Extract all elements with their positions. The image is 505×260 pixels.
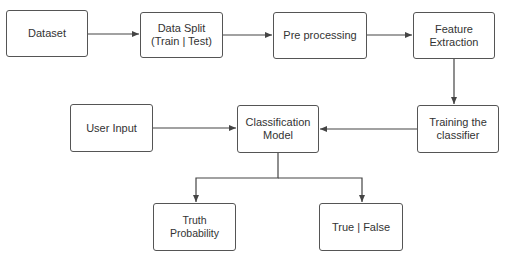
node-label: User Input (86, 122, 137, 135)
arrow-model-truefalse (278, 178, 362, 202)
node-label: True | False (332, 221, 390, 234)
node-data-split: Data Split (Train | Test) (140, 12, 223, 58)
node-label: Feature Extraction (426, 23, 482, 49)
node-label: Truth Probability (157, 214, 232, 240)
node-dataset: Dataset (6, 10, 88, 57)
node-label: Data Split (Train | Test) (144, 22, 219, 48)
node-label: Pre processing (283, 29, 356, 42)
node-feature-extraction: Feature Extraction (413, 12, 495, 59)
node-label: Classification Model (241, 116, 315, 142)
node-preprocessing: Pre processing (273, 12, 367, 59)
node-label: Dataset (28, 27, 66, 40)
node-label: Training the classifier (428, 116, 488, 142)
node-training: Training the classifier (417, 105, 499, 153)
node-classification-model: Classification Model (237, 105, 319, 153)
arrow-model-truthprob (196, 153, 278, 202)
node-user-input: User Input (70, 104, 153, 152)
node-true-false: True | False (319, 203, 403, 251)
node-truth-probability: Truth Probability (153, 203, 236, 251)
